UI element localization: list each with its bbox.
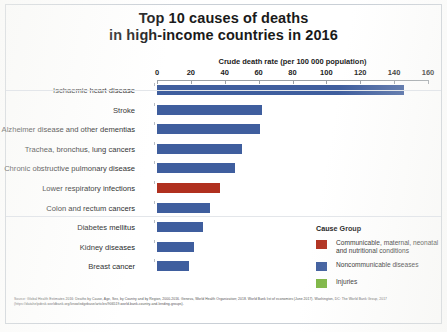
bar-row: Colon and rectum cancers	[157, 201, 428, 221]
y-tick-mark	[154, 83, 155, 86]
bar-9	[157, 242, 194, 252]
y-tick-mark	[154, 220, 155, 223]
bar-3	[157, 124, 260, 134]
legend-item: Communicable, maternal, neonatal and nut…	[316, 239, 442, 255]
bar-row: Trachea, bronchus, lung cancers	[157, 142, 428, 162]
category-label: Diabetes mellitus	[77, 223, 135, 232]
legend-items: Communicable, maternal, neonatal and nut…	[316, 239, 442, 289]
category-label: Lower respiratory infections	[42, 184, 135, 193]
chart-page: Top 10 causes of deaths in high-income c…	[0, 0, 447, 332]
bar-row: Lower respiratory infections	[157, 181, 428, 201]
title-line-2: in high-income countries in 2016	[0, 27, 447, 44]
category-label: Alzheimer disease and other dementias	[2, 125, 135, 134]
legend-swatch	[316, 262, 327, 271]
bar-row: Ischaemic heart disease	[157, 83, 428, 103]
x-tick-label-100: 100	[320, 68, 333, 77]
legend-item: Noncommunicable diseases	[316, 261, 442, 272]
chart-title: Top 10 causes of deaths in high-income c…	[0, 10, 447, 44]
y-tick-mark	[154, 259, 155, 262]
bar-row: Stroke	[157, 103, 428, 123]
category-label: Stroke	[113, 106, 135, 115]
y-tick-mark	[154, 122, 155, 125]
legend-label: Noncommunicable diseases	[336, 261, 442, 269]
category-label: Trachea, bronchus, lung cancers	[25, 145, 135, 154]
x-tick-label-20: 20	[187, 68, 195, 77]
title-line-1: Top 10 causes of deaths	[0, 10, 447, 27]
category-label: Chronic obstructive pulmonary disease	[4, 164, 135, 173]
x-tick-label-120: 120	[354, 68, 367, 77]
legend-swatch	[316, 279, 327, 288]
category-label: Breast cancer	[88, 262, 135, 271]
source-note: Source: Global Health Estimates 2016: De…	[14, 297, 434, 306]
bar-7	[157, 203, 210, 213]
x-tick-label-160: 160	[422, 68, 435, 77]
bar-8	[157, 222, 203, 232]
y-tick-mark	[154, 240, 155, 243]
scan-artifact-line	[6, 216, 441, 217]
scan-artifact-line	[6, 90, 441, 91]
bar-2	[157, 105, 262, 115]
y-tick-mark	[154, 142, 155, 145]
legend-label: Injuries	[336, 278, 442, 286]
category-label: Colon and rectum cancers	[46, 204, 135, 213]
x-tick-label-0: 0	[155, 68, 159, 77]
x-axis-tick-labels: 020406080100120140160	[157, 68, 428, 79]
y-tick-mark	[154, 161, 155, 164]
bar-5	[157, 163, 235, 173]
y-tick-mark	[154, 181, 155, 184]
legend-title: Cause Group	[316, 224, 442, 233]
x-tick-label-140: 140	[388, 68, 401, 77]
category-label: Kidney diseases	[80, 243, 135, 252]
x-tick-label-80: 80	[288, 68, 296, 77]
legend-swatch	[316, 240, 327, 249]
y-tick-mark	[154, 201, 155, 204]
bar-4	[157, 144, 242, 154]
x-axis-title: Crude death rate (per 100 000 population…	[157, 57, 428, 66]
bar-row: Chronic obstructive pulmonary disease	[157, 161, 428, 181]
y-tick-mark	[154, 103, 155, 106]
x-tick-mark-160	[428, 81, 429, 84]
legend-label: Communicable, maternal, neonatal and nut…	[336, 239, 442, 255]
bar-row: Alzheimer disease and other dementias	[157, 122, 428, 142]
legend-item: Injuries	[316, 278, 442, 289]
x-tick-label-60: 60	[254, 68, 262, 77]
legend: Cause Group Communicable, maternal, neon…	[316, 224, 442, 295]
bar-10	[157, 261, 189, 271]
bar-6	[157, 183, 220, 193]
x-tick-label-40: 40	[221, 68, 229, 77]
